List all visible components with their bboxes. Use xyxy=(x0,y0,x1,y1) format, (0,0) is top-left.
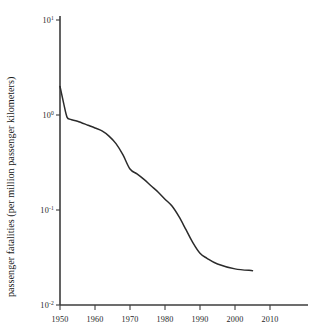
x-tick-label: 2010 xyxy=(261,315,278,324)
x-axis-ticks: 1950 1960 1970 1980 1990 2000 2010 xyxy=(51,305,278,324)
y-tick-label: 10-1 xyxy=(40,205,54,215)
y-tick-label: 10-2 xyxy=(40,300,54,310)
y-tick-label: 101 xyxy=(42,15,54,25)
y-axis-ticks: 101 100 10-1 10-2 xyxy=(40,15,60,310)
data-series-line xyxy=(60,86,253,270)
x-tick-label: 1950 xyxy=(51,315,68,324)
x-tick-label: 1960 xyxy=(86,315,103,324)
x-tick-label: 2000 xyxy=(226,315,243,324)
y-tick-label: 100 xyxy=(42,110,54,120)
x-tick-label: 1970 xyxy=(121,315,138,324)
chart-page: passenger fatalities (per million passen… xyxy=(0,0,315,333)
x-tick-label: 1990 xyxy=(191,315,208,324)
x-tick-label: 1980 xyxy=(156,315,173,324)
y-axis-title: passenger fatalities (per million passen… xyxy=(5,77,17,297)
line-chart: passenger fatalities (per million passen… xyxy=(0,0,315,333)
